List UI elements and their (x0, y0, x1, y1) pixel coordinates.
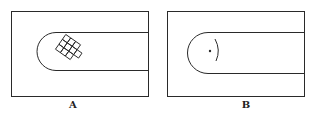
panel-b-frame (168, 12, 305, 97)
panel-b-dot (209, 50, 211, 52)
panel-b-channel (188, 33, 305, 74)
panel-b-label: B (236, 99, 256, 110)
panel-a-channel (37, 33, 148, 71)
panel-b-arc (215, 39, 218, 61)
panel-a-grid (55, 34, 85, 63)
diagram-canvas (0, 0, 317, 115)
panel-a-frame (12, 12, 149, 97)
panel-a (12, 12, 149, 97)
panel-b (168, 12, 305, 97)
panel-a-label: A (63, 99, 83, 110)
